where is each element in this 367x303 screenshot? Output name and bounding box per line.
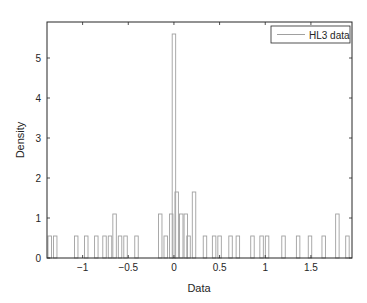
histogram-bar — [346, 236, 349, 258]
x-tick-label: 0 — [171, 262, 177, 273]
x-tick-label: 1.5 — [304, 262, 318, 273]
legend-entry-label: HL3 data — [309, 30, 350, 41]
histogram-bar — [192, 192, 195, 258]
histogram-bars — [48, 34, 349, 258]
histogram-bar — [218, 236, 221, 258]
histogram-bar — [164, 236, 167, 258]
histogram-bar — [296, 236, 299, 258]
histogram-bar — [260, 236, 263, 258]
histogram-bar — [108, 236, 111, 258]
y-tick-label: 3 — [35, 133, 41, 144]
histogram-bar — [95, 236, 98, 258]
histogram-bar — [203, 236, 206, 258]
x-tick-label: −1 — [77, 262, 89, 273]
y-tick-label: 2 — [35, 173, 41, 184]
histogram-bar — [124, 236, 127, 258]
legend: HL3 data — [271, 26, 350, 43]
histogram-bar — [336, 214, 339, 258]
y-axis-ticks: 012345 — [35, 53, 352, 264]
histogram-bar — [74, 236, 77, 258]
y-tick-label: 5 — [35, 53, 41, 64]
histogram-bar — [180, 214, 183, 258]
histogram-bar — [229, 236, 232, 258]
histogram-bar — [282, 236, 285, 258]
histogram-bar — [118, 236, 121, 258]
y-axis-label: Density — [14, 121, 26, 158]
histogram-bar — [265, 236, 268, 258]
x-tick-label: 0.5 — [213, 262, 227, 273]
y-tick-label: 4 — [35, 93, 41, 104]
histogram-bar — [159, 214, 162, 258]
histogram-bar — [236, 236, 239, 258]
histogram-bar — [308, 236, 311, 258]
histogram-bar — [212, 236, 215, 258]
x-axis-label: Data — [187, 282, 211, 294]
y-tick-label: 1 — [35, 213, 41, 224]
histogram-figure: −1−0.500.511.5 012345 Data Density HL3 d… — [0, 0, 367, 303]
axes-frame — [47, 22, 352, 258]
histogram-bar — [322, 236, 325, 258]
histogram-bar — [135, 236, 138, 258]
y-tick-label: 0 — [35, 253, 41, 264]
x-tick-label: −0.5 — [118, 262, 138, 273]
histogram-bar — [103, 236, 106, 258]
histogram-bar — [251, 236, 254, 258]
chart-canvas: −1−0.500.511.5 012345 Data Density HL3 d… — [0, 0, 367, 303]
histogram-bar — [48, 236, 51, 258]
histogram-bar — [113, 214, 116, 258]
histogram-bar — [85, 236, 88, 258]
histogram-bar — [53, 236, 56, 258]
x-tick-label: 1 — [262, 262, 268, 273]
